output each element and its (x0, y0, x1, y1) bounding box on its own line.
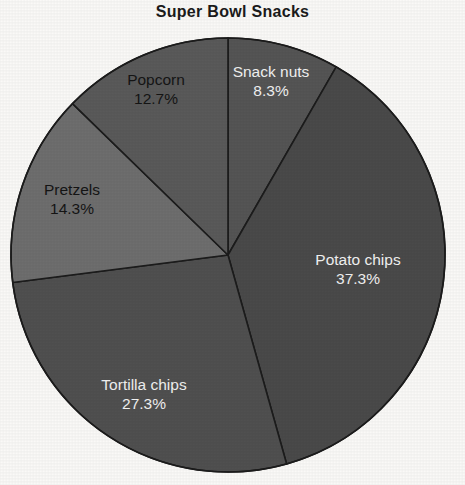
pie-chart-canvas (0, 0, 465, 485)
pie-slice-group (11, 38, 445, 472)
pie-chart-figure: Super Bowl Snacks Snack nuts 8.3% Potato… (0, 0, 465, 485)
